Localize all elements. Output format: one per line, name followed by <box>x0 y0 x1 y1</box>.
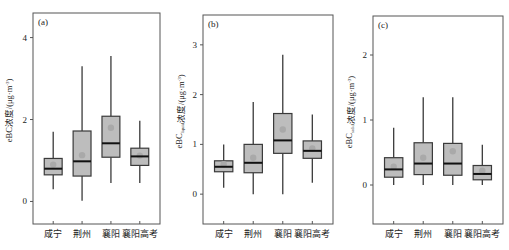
box-1 <box>414 97 432 185</box>
chart-figure: (a)024eBC浓度/(μg·m-3)咸宁荆州襄阳襄阳高考(b)0123eBC… <box>0 0 509 250</box>
x-tick-label: 襄阳 <box>274 228 292 239</box>
box-0 <box>385 128 403 185</box>
x-tick-label: 襄阳高考 <box>122 228 158 239</box>
iqr-box <box>102 116 120 157</box>
mean-marker <box>450 148 456 154</box>
mean-marker <box>280 126 286 132</box>
plot-frame <box>373 16 503 224</box>
x-tick-label: 荆州 <box>244 228 262 239</box>
box-2 <box>444 97 462 185</box>
x-tick-label: 襄阳高考 <box>464 228 500 239</box>
y-tick-label: 3 <box>193 40 198 50</box>
mean-marker <box>79 152 85 158</box>
y-tick-label: 2 <box>193 90 198 100</box>
y-tick-label: 0 <box>193 189 198 199</box>
box-3 <box>131 121 149 183</box>
y-tick-label: 0 <box>363 180 368 190</box>
x-tick-label: 荆州 <box>73 228 91 239</box>
mean-marker <box>50 161 56 167</box>
mean-marker <box>250 155 256 161</box>
x-tick-label: 咸宁 <box>385 228 403 239</box>
panel-label: (b) <box>208 19 219 29</box>
box-3 <box>303 115 321 183</box>
y-tick-label: 1 <box>363 115 368 125</box>
x-tick-label: 荆州 <box>414 228 432 239</box>
y-tick-label: 4 <box>23 33 28 43</box>
x-tick-label: 襄阳高考 <box>294 228 330 239</box>
plot-frame <box>33 13 160 224</box>
x-tick-label: 襄阳 <box>102 228 120 239</box>
y-axis-label: eBCsolid浓度/(μg·m-3) <box>344 76 356 149</box>
y-tick-label: 2 <box>363 50 368 60</box>
box-3 <box>473 145 491 185</box>
box-0 <box>44 132 62 189</box>
panel-b: (b)0123eBCliquid浓度/(μg·m-3)咸宁荆州襄阳襄阳高考 <box>174 15 333 239</box>
panel-label: (a) <box>38 17 48 27</box>
x-tick-label: 襄阳 <box>444 228 462 239</box>
box-2 <box>274 55 292 194</box>
y-tick-label: 0 <box>23 196 28 206</box>
box-0 <box>215 144 233 187</box>
y-axis-label: eBC浓度/(μg·m-3) <box>4 79 14 143</box>
y-axis-label: eBCliquid浓度/(μg·m-3) <box>174 74 186 148</box>
panel-a: (a)024eBC浓度/(μg·m-3)咸宁荆州襄阳襄阳高考 <box>4 13 160 239</box>
box-1 <box>73 66 91 200</box>
panel-label: (c) <box>378 20 388 30</box>
box-2 <box>102 56 120 183</box>
x-tick-label: 咸宁 <box>215 228 233 239</box>
mean-marker <box>420 155 426 161</box>
y-tick-label: 1 <box>193 139 198 149</box>
iqr-box <box>274 114 292 154</box>
mean-marker <box>108 125 114 131</box>
panel-c: (c)012eBCsolid浓度/(μg·m-3)咸宁荆州襄阳襄阳高考 <box>344 16 503 239</box>
x-tick-label: 咸宁 <box>44 228 62 239</box>
mean-marker <box>479 168 485 174</box>
plot-frame <box>203 15 333 224</box>
y-tick-label: 2 <box>23 115 28 125</box>
box-1 <box>244 102 262 194</box>
